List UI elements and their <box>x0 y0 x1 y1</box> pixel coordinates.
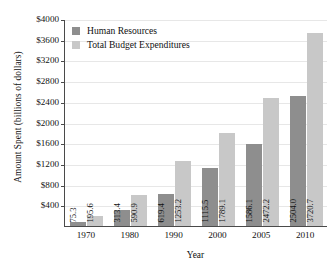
y-tick-label: $800 <box>41 181 59 190</box>
bar-value-label: 1115.5 <box>201 200 210 223</box>
bar-value-label: 195.6 <box>87 204 96 223</box>
bar-value-label: 1586.1 <box>245 199 254 223</box>
bar-value-label: 590.9 <box>131 204 140 223</box>
y-tick-label: $400 <box>41 202 59 211</box>
y-tick-label: $2800 <box>36 78 59 87</box>
bar-group: 1586.12472.2 <box>240 20 284 226</box>
x-tick-label: 2010 <box>296 231 314 240</box>
x-tick-label: 1980 <box>121 231 139 240</box>
x-tick-label: 1990 <box>164 231 182 240</box>
bar-value-label: 619.4 <box>157 204 166 223</box>
legend-item[interactable]: Human Resources <box>72 24 190 38</box>
y-tick-label: $2000 <box>36 119 59 128</box>
x-tick-label: 2005 <box>252 231 270 240</box>
y-tick-label: $1600 <box>36 140 59 149</box>
legend-item[interactable]: Total Budget Expenditures <box>72 38 190 52</box>
bar[interactable]: 1789.1 <box>219 133 235 226</box>
bar-value-label: 3720.7 <box>306 199 315 223</box>
bar-value-label: 313.4 <box>114 204 123 223</box>
bar-group: 1115.51789.1 <box>197 20 241 226</box>
bar-chart: Amount Spent (billions of dollars) $400$… <box>0 0 331 269</box>
bar[interactable]: 313.4 <box>114 210 130 226</box>
bar-value-label: 1253.2 <box>174 199 183 223</box>
x-tick-label: 1970 <box>77 231 95 240</box>
legend-swatch-icon <box>72 27 80 35</box>
bar[interactable]: 3720.7 <box>307 33 323 226</box>
bar[interactable]: 75.3 <box>70 222 86 226</box>
chart-legend: Human ResourcesTotal Budget Expenditures <box>72 24 190 52</box>
y-tick-label: $2400 <box>36 98 59 107</box>
y-axis-title: Amount Spent (billions of dollars) <box>13 17 23 217</box>
y-tick-label: $3200 <box>36 57 59 66</box>
bar[interactable]: 1115.5 <box>202 168 218 226</box>
x-tick-label: 2000 <box>208 231 226 240</box>
bar-group: 2504.03720.7 <box>284 20 328 226</box>
bar[interactable]: 195.6 <box>87 216 103 226</box>
legend-label: Human Resources <box>87 26 157 36</box>
bar[interactable]: 1586.1 <box>246 144 262 226</box>
bar[interactable]: 2472.2 <box>263 98 279 226</box>
x-axis-title: Year <box>64 250 327 260</box>
bar[interactable]: 619.4 <box>158 194 174 226</box>
bar[interactable]: 590.9 <box>131 195 147 226</box>
y-tick-label: $3600 <box>36 36 59 45</box>
legend-label: Total Budget Expenditures <box>87 40 190 50</box>
bar-value-label: 75.3 <box>70 208 79 223</box>
bar-value-label: 2472.2 <box>262 199 271 223</box>
legend-swatch-icon <box>72 41 80 49</box>
y-tick-label: $4000 <box>36 15 59 24</box>
bar[interactable]: 2504.0 <box>290 96 306 226</box>
bar-value-label: 2504.0 <box>289 199 298 223</box>
bar-value-label: 1789.1 <box>218 199 227 223</box>
y-tick-label: $1200 <box>36 160 59 169</box>
bar[interactable]: 1253.2 <box>175 161 191 226</box>
